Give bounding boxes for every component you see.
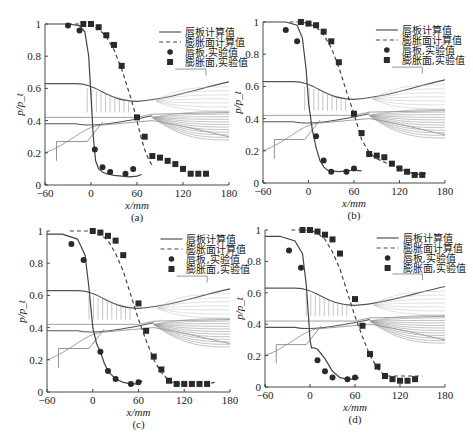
expansion-experimental-point xyxy=(337,251,343,257)
expansion-experimental-point xyxy=(330,236,336,242)
lip-experimental-point xyxy=(128,381,134,387)
y-tick-label: 1 xyxy=(256,224,262,236)
expansion-experimental-point xyxy=(113,238,119,244)
x-tick-label: 180 xyxy=(437,389,454,401)
lip-experimental-point xyxy=(100,164,106,170)
lip-experimental-point xyxy=(77,27,83,33)
x-tick-label: 0 xyxy=(90,394,96,406)
expansion-experimental-point xyxy=(88,21,94,27)
inlet-contour-diagram xyxy=(265,274,445,363)
expansion-experimental-point xyxy=(405,378,411,384)
expansion-experimental-point xyxy=(412,376,418,382)
lip-experimental-point xyxy=(97,349,103,355)
expansion-experimental-point xyxy=(389,161,395,167)
y-tick-label: 1 xyxy=(36,18,42,30)
y-axis-label: p/p_t xyxy=(233,296,245,321)
x-axis-label: x/mm xyxy=(342,401,367,413)
expansion-experimental-point xyxy=(180,166,186,172)
legend: 唇板计算值膨胀面计算值唇板,实验值膨胀面,实验值 xyxy=(159,26,248,68)
lip-experimental-point xyxy=(313,133,319,139)
expansion-experimental-point xyxy=(195,171,201,177)
lip-experimental-point xyxy=(68,241,74,247)
expansion-experimental-point xyxy=(188,171,194,177)
lip-experimental-point xyxy=(321,157,327,163)
lip-experimental-point xyxy=(130,166,136,172)
expansion-experimental-point xyxy=(134,114,140,120)
expansion-experimental-point xyxy=(359,130,365,136)
expansion-experimental-point xyxy=(165,158,171,164)
panel-caption: (b) xyxy=(348,209,361,222)
expansion-experimental-point xyxy=(151,354,157,360)
y-tick-label: 0.6 xyxy=(27,82,41,94)
expansion-experimental-point xyxy=(157,155,163,161)
y-tick-label: 0.4 xyxy=(29,322,43,334)
y-tick-label: 0.2 xyxy=(29,354,43,366)
x-tick-label: 0 xyxy=(88,187,94,199)
expansion-experimental-point xyxy=(352,296,358,302)
expansion-experimental-point xyxy=(375,364,381,370)
lip-experimental-point xyxy=(286,247,292,253)
lip-experimental-point xyxy=(123,171,129,177)
y-tick-label: 0.2 xyxy=(245,145,259,157)
y-tick-label: 0.8 xyxy=(245,48,259,60)
expansion-experimental-point xyxy=(360,323,366,329)
expansion-experimental-point xyxy=(306,21,312,27)
chart-panel-d: −6006012018000.20.40.60.81x/mmp/p_t(d)唇板… xyxy=(236,222,472,444)
chart-panel-b: −6006012018000.20.40.60.81x/mmp/p_t(b)唇板… xyxy=(236,0,472,222)
lip-computed-line xyxy=(263,22,362,172)
expansion-experimental-point xyxy=(136,300,142,306)
expansion-experimental-point xyxy=(321,29,327,35)
expansion-experimental-point xyxy=(143,328,149,334)
x-tick-label: 0 xyxy=(307,389,313,401)
expansion-experimental-point xyxy=(189,381,195,387)
lip-experimental-point xyxy=(351,166,357,172)
expansion-experimental-point xyxy=(181,381,187,387)
lip-experimental-point xyxy=(328,169,334,175)
lip-experimental-point xyxy=(107,169,113,175)
lip-experimental-point xyxy=(136,379,142,385)
y-tick-label: 0 xyxy=(36,179,42,191)
expansion-experimental-point xyxy=(382,373,388,379)
y-axis-label: p/p_t xyxy=(231,90,243,115)
expansion-experimental-point xyxy=(397,378,403,384)
plot-c: −6006012018000.20.40.60.81x/mmp/p_t(c)唇板… xyxy=(0,222,236,444)
x-tick-label: 60 xyxy=(132,187,144,199)
expansion-experimental-point xyxy=(96,24,102,30)
x-axis-label: x/mm xyxy=(126,406,151,418)
expansion-experimental-point xyxy=(381,154,387,160)
y-tick-label: 0.4 xyxy=(27,115,41,127)
y-tick-label: 0.2 xyxy=(247,350,261,362)
plot-d: −6006012018000.20.40.60.81x/mmp/p_t(d)唇板… xyxy=(236,222,472,444)
y-tick-label: 1 xyxy=(254,16,260,28)
expansion-experimental-point xyxy=(374,153,380,159)
y-tick-label: 0.6 xyxy=(247,287,261,299)
y-tick-label: 0.4 xyxy=(245,113,259,125)
expansion-experimental-point xyxy=(322,232,328,238)
lip-experimental-point xyxy=(294,38,300,44)
lip-experimental-point xyxy=(343,169,349,175)
x-tick-label: 120 xyxy=(176,394,193,406)
x-tick-label: 0 xyxy=(306,185,312,197)
expansion-experimental-point xyxy=(90,228,96,234)
expansion-experimental-point xyxy=(203,171,209,177)
expansion-experimental-point xyxy=(404,169,410,175)
y-tick-label: 0.8 xyxy=(27,50,41,62)
x-tick-label: 120 xyxy=(391,185,408,197)
lip-experimental-point xyxy=(315,357,321,363)
lip-computed-line xyxy=(47,234,142,384)
x-tick-label: 120 xyxy=(392,389,409,401)
expansion-experimental-point xyxy=(313,22,319,28)
y-tick-label: 0.8 xyxy=(29,257,43,269)
y-tick-label: 0 xyxy=(38,386,44,398)
expansion-experimental-point xyxy=(204,381,210,387)
expansion-experimental-point xyxy=(298,19,304,25)
panel-caption: (d) xyxy=(349,413,362,426)
lip-computed-line xyxy=(265,236,359,379)
x-tick-label: 180 xyxy=(437,185,454,197)
expansion-experimental-point xyxy=(315,229,321,235)
expansion-experimental-point xyxy=(419,172,425,178)
y-tick-label: 0.2 xyxy=(27,147,41,159)
lip-experimental-point xyxy=(92,147,98,153)
expansion-experimental-point xyxy=(197,381,203,387)
y-tick-label: 0 xyxy=(254,177,260,189)
